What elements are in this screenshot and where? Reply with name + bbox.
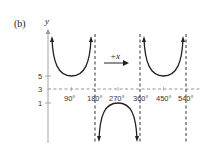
x-tick-90: 90° <box>64 94 75 103</box>
y-tick-1: 1 <box>38 99 42 108</box>
y-tick-5: 5 <box>38 72 42 81</box>
curve-upper-2 <box>144 39 183 76</box>
shift-label: +x <box>110 51 120 61</box>
curve-lower <box>99 103 137 139</box>
chart: (b) y 5 3 1 90° 180° 270° 360° 450° 540°… <box>0 0 207 153</box>
x-tick-360: 360° <box>133 94 149 103</box>
x-tick-270: 270° <box>109 94 125 103</box>
y-axis-label: y <box>44 16 49 26</box>
x-tick-450: 450° <box>156 94 172 103</box>
y-axis-arrow-icon <box>46 29 51 34</box>
panel-label: (b) <box>14 18 26 30</box>
y-tick-3: 3 <box>38 85 42 94</box>
curve-upper-1 <box>52 39 91 76</box>
